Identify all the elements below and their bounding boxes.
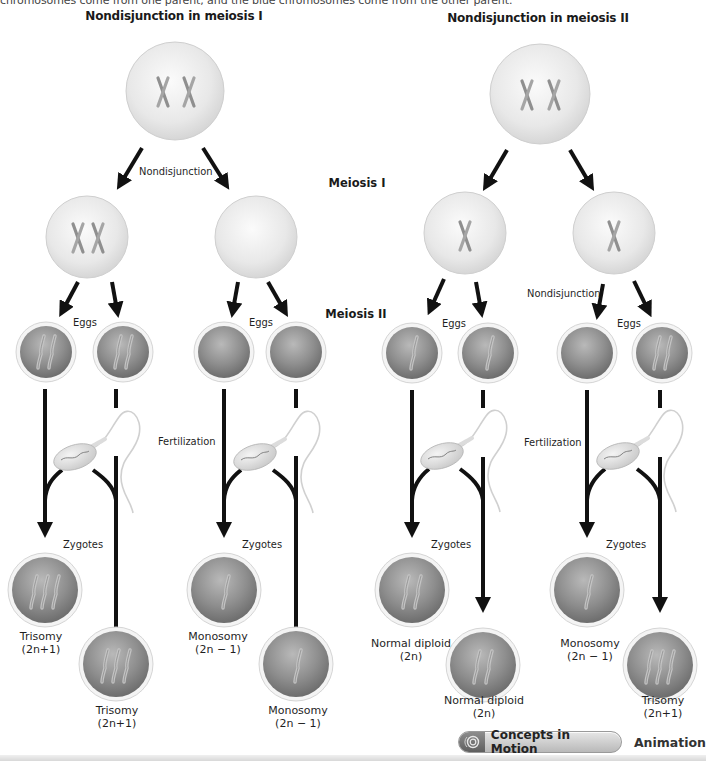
arrow-icon: [570, 150, 590, 184]
stage-label-meiosis-1: Meiosis I: [328, 176, 385, 190]
sperm-icon: [593, 410, 682, 512]
result-name: Trisomy: [642, 694, 684, 707]
panel-title-meiosis-2: Nondisjunction in meiosis II: [447, 11, 629, 25]
panel-meiosis-1: [8, 42, 333, 701]
egg-cell: [93, 322, 153, 382]
arrow-icon: [431, 279, 444, 308]
arrow-icon: [268, 282, 284, 310]
egg-cell: [382, 323, 442, 383]
fertilization-label: Fertilization: [524, 436, 582, 449]
arrow-icon: [112, 282, 117, 310]
result-formula: (2n − 1): [560, 650, 620, 663]
arrow-icon: [476, 282, 481, 310]
result-label: Trisomy (2n+1): [642, 694, 684, 720]
meiosis-1-cell-with-pairs: [46, 196, 128, 278]
arrow-icon: [233, 282, 238, 310]
sperm-icon: [50, 411, 139, 513]
result-label: Monosomy (2n − 1): [188, 630, 248, 656]
result-label: Monosomy (2n − 1): [268, 704, 328, 730]
result-name: Monosomy: [188, 630, 248, 643]
egg-cell: [557, 323, 617, 383]
result-label: Monosomy (2n − 1): [560, 637, 620, 663]
eggs-label: Eggs: [442, 317, 466, 330]
result-name: Trisomy: [20, 630, 62, 643]
concepts-in-motion: Concepts in Motion Animation: [458, 731, 706, 753]
result-label: Normal diploid (2n): [444, 694, 524, 720]
result-label: Trisomy (2n+1): [96, 704, 138, 730]
zygote-cell: [187, 553, 261, 627]
eggs-label: Eggs: [73, 316, 97, 329]
eggs-label: Eggs: [617, 317, 641, 330]
egg-cell: [266, 322, 326, 382]
zygote-cell: [375, 553, 449, 627]
result-formula: (2n − 1): [188, 643, 248, 656]
result-label: Normal diploid (2n): [371, 637, 451, 663]
meiosis-1-cell-empty: [215, 196, 297, 278]
egg-cell: [632, 323, 692, 383]
result-formula: (2n): [371, 650, 451, 663]
sperm-icon: [230, 411, 319, 513]
bottom-band: [0, 755, 706, 761]
egg-cell: [194, 322, 254, 382]
zygote-cell: [259, 627, 333, 701]
concepts-in-motion-button[interactable]: Concepts in Motion: [458, 731, 622, 753]
parent-cell: [490, 44, 590, 144]
result-label: Trisomy (2n+1): [20, 630, 62, 656]
sperm-icon: [417, 410, 506, 512]
egg-cell: [458, 323, 518, 383]
fertilization-label: Fertilization: [158, 435, 216, 448]
arrow-icon: [634, 281, 648, 310]
result-formula: (2n): [444, 707, 524, 720]
zygotes-label: Zygotes: [242, 538, 282, 551]
zygote-cell: [550, 553, 624, 627]
result-name: Monosomy: [268, 704, 328, 717]
result-name: Monosomy: [560, 637, 620, 650]
result-name: Normal diploid: [371, 637, 451, 650]
nondisjunction-label: Nondisjunction: [527, 287, 601, 300]
stage-label-meiosis-2: Meiosis II: [325, 307, 386, 321]
eggs-label: Eggs: [249, 316, 273, 329]
nondisjunction-label: Nondisjunction: [139, 165, 213, 178]
egg-cell: [16, 322, 76, 382]
result-name: Trisomy: [96, 704, 138, 717]
parent-cell: [126, 42, 224, 140]
zygotes-label: Zygotes: [63, 538, 103, 551]
animation-label[interactable]: Animation: [634, 735, 706, 750]
arrow-icon: [487, 150, 507, 184]
result-formula: (2n+1): [96, 717, 138, 730]
result-formula: (2n − 1): [268, 717, 328, 730]
concepts-in-motion-label: Concepts in Motion: [491, 728, 611, 756]
result-name: Normal diploid: [444, 694, 524, 707]
arrow-icon: [63, 282, 78, 310]
ripple-icon: [459, 732, 485, 752]
zygotes-label: Zygotes: [431, 538, 471, 551]
zygotes-label: Zygotes: [606, 538, 646, 551]
result-formula: (2n+1): [20, 643, 62, 656]
panel-meiosis-2: [375, 44, 697, 702]
result-formula: (2n+1): [642, 707, 684, 720]
panel-title-meiosis-1: Nondisjunction in meiosis I: [85, 9, 262, 23]
zygote-cell: [446, 628, 520, 702]
